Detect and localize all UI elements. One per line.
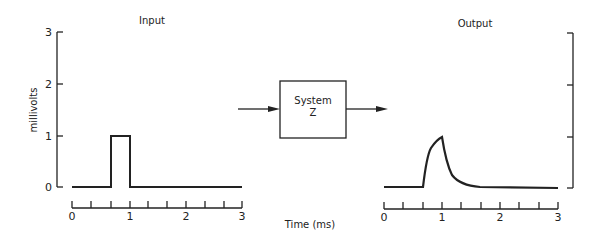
- output-response-curve: [384, 137, 558, 188]
- x-tick-label: 2: [183, 210, 190, 223]
- system-diagram: Input 3 2 1 0 millivolts: [0, 0, 600, 243]
- input-chart: Input 3 2 1 0 millivolts: [28, 15, 246, 223]
- output-title: Output: [458, 18, 493, 29]
- x-tick-label: 1: [439, 211, 446, 224]
- x-tick-label: 0: [69, 210, 76, 223]
- system-label-line1: System: [294, 95, 331, 106]
- y-tick-label: 3: [45, 26, 52, 39]
- output-arrow-icon: [346, 106, 388, 112]
- input-pulse-line: [72, 136, 242, 187]
- output-y-axis: [567, 33, 573, 188]
- input-x-axis: 0 1 2 3: [69, 201, 246, 223]
- y-axis-label: millivolts: [28, 88, 39, 133]
- y-tick-label: 1: [45, 130, 52, 143]
- x-axis-label: Time (ms): [284, 219, 336, 230]
- output-chart: Output 0: [381, 18, 574, 224]
- system-block: System Z: [238, 81, 388, 138]
- output-x-axis: 0 1 2 3: [381, 202, 562, 224]
- system-label-line2: Z: [310, 107, 317, 118]
- y-tick-label: 0: [45, 181, 52, 194]
- x-tick-label: 0: [381, 211, 388, 224]
- x-tick-label: 2: [497, 211, 504, 224]
- x-tick-label: 1: [127, 210, 134, 223]
- input-arrow-icon: [238, 106, 280, 112]
- x-tick-label: 3: [555, 211, 562, 224]
- y-tick-label: 2: [45, 78, 52, 91]
- x-tick-label: 3: [239, 210, 246, 223]
- input-title: Input: [139, 15, 165, 26]
- input-y-axis: 3 2 1 0 millivolts: [28, 26, 63, 194]
